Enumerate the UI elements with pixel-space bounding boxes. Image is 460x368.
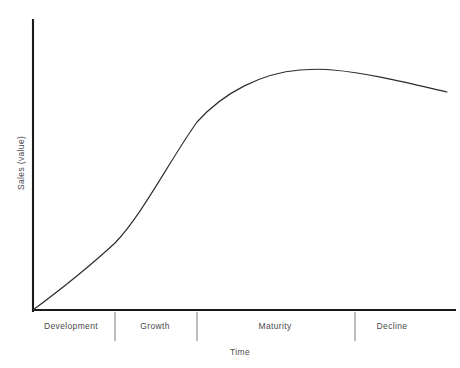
stage-label-maturity: Maturity (258, 321, 291, 331)
stage-label-decline: Decline (377, 321, 408, 331)
y-axis-label: Sales (value) (16, 136, 26, 190)
sales-curve (33, 69, 447, 310)
product-life-cycle-chart: Development Growth Maturity Decline Time… (0, 0, 460, 368)
chart-canvas: Development Growth Maturity Decline Time… (0, 0, 460, 368)
stage-label-development: Development (44, 321, 98, 331)
x-axis-label: Time (230, 347, 250, 357)
stage-label-growth: Growth (140, 321, 170, 331)
